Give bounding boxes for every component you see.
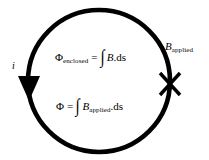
current-loop-circle <box>28 10 170 152</box>
equation-enclosed-equals: = <box>91 51 97 63</box>
equation-enclosed-phi-subscript: enclosed <box>63 57 88 65</box>
equation-flux-enclosed: Φenclosed=∫B.ds <box>55 52 126 65</box>
current-direction-arrowhead <box>18 76 40 101</box>
equation-applied-phi: Φ <box>56 100 64 112</box>
equation-applied-integrand-subscript: applied <box>89 106 110 114</box>
b-applied-label-subscript: applied <box>172 46 193 54</box>
equation-enclosed-integrand: B <box>107 51 114 63</box>
b-applied-label-base: B <box>165 40 172 52</box>
equation-enclosed-tail: .ds <box>114 51 127 63</box>
equation-applied-equals: = <box>67 100 73 112</box>
equation-applied-tail: .ds <box>111 100 124 112</box>
equation-flux-applied: Φ=∫Bapplied.ds <box>56 101 123 114</box>
current-label: i <box>12 60 15 71</box>
flux-diagram-figure: i Bapplied Φenclosed=∫B.ds Φ=∫Bapplied.d… <box>0 0 209 160</box>
loop-vector-graphic <box>0 0 209 160</box>
equation-enclosed-phi: Φ <box>55 51 63 63</box>
current-label-text: i <box>12 60 15 71</box>
b-applied-label: Bapplied <box>165 40 193 54</box>
